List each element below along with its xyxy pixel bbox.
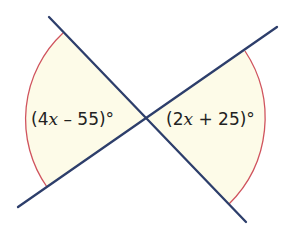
left-label-suffix: – 55)° [58,109,114,129]
right-label-suffix: + 25)° [193,109,255,129]
vertical-angles-diagram: (4x – 55)° (2x + 25)° [0,0,287,236]
right-label-variable: x [183,109,193,129]
right-angle-label: (2x + 25)° [166,109,255,129]
left-label-prefix: (4 [31,109,48,129]
left-label-variable: x [48,109,58,129]
right-label-prefix: (2 [166,109,183,129]
left-angle-label: (4x – 55)° [31,109,114,129]
